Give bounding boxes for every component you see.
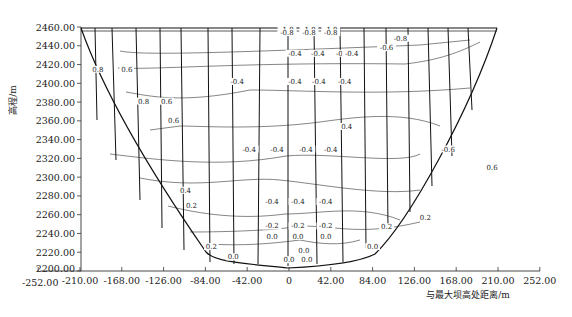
y-tick-label: 2260.00 — [36, 209, 75, 220]
y-tick-label: 2240.00 — [36, 228, 75, 239]
x-axis-ticks: -252.00-210.00-168.00-126.00-84.00-42.00… — [22, 267, 556, 288]
contour-labels: -1.0-0.8-1.0-0.8-1.0-0.8-0.6-0.8-0.4-0.4… — [91, 26, 500, 264]
y-tick-label: 2400.00 — [36, 78, 75, 89]
y-axis-label: 高程/m — [7, 85, 18, 115]
contour-label: -0.4 — [324, 146, 338, 154]
y-tick-label: 2220.00 — [36, 247, 75, 258]
dam-outline — [81, 28, 497, 268]
contour-label: -0.4 — [288, 78, 302, 86]
contour-label: 0.8 — [92, 66, 103, 74]
contour-label: -0.4 — [311, 50, 325, 58]
contour-label: -0.8 — [302, 29, 316, 37]
contour-label: 0.0 — [228, 253, 239, 261]
contour-label: -0.8 — [324, 29, 338, 37]
contour-label: 0.2 — [186, 202, 197, 210]
x-tick-label: 126.00 — [398, 275, 431, 286]
y-tick-label: 2280.00 — [36, 190, 75, 201]
y-tick-label: 2380.00 — [36, 97, 75, 108]
x-tick-label: 252.00 — [523, 275, 556, 286]
contour-label: 0.0 — [367, 243, 378, 251]
contour-label: -0.6 — [441, 146, 455, 154]
contour-label: 0.0 — [298, 247, 309, 255]
contour-label: 0.0 — [320, 233, 331, 241]
x-tick-label: 0 — [286, 275, 292, 286]
contour-label: -0.2 — [319, 222, 333, 230]
x-tick-label: -252.00 — [22, 277, 58, 288]
contour-label: 0.2 — [420, 214, 431, 222]
contour-label: -0.2 — [291, 222, 305, 230]
y-tick-label: 2440.00 — [36, 40, 75, 51]
x-tick-label: 168.00 — [440, 275, 473, 286]
contour-label: -0.2 — [265, 222, 279, 230]
x-tick-label: -168.00 — [104, 275, 140, 286]
contour-label: -0.8 — [280, 29, 294, 37]
x-tick-label: 84.00 — [359, 275, 386, 286]
y-tick-label: 2320.00 — [36, 153, 75, 164]
contour-label: -0.4 — [230, 78, 244, 86]
y-tick-label: 2420.00 — [36, 59, 75, 70]
contour-chart: -252.00-210.00-168.00-126.00-84.00-42.00… — [0, 0, 572, 317]
contour-label: 0.2 — [381, 223, 392, 231]
x-tick-label: -84.00 — [190, 275, 220, 286]
contour-label: -0.4 — [299, 146, 313, 154]
contour-label: 0.0 — [292, 233, 303, 241]
contour-label: 0.0 — [267, 233, 278, 241]
contour-label: -0.6 — [380, 44, 394, 52]
contour-label: -0.4 — [345, 50, 359, 58]
y-tick-label: 2340.00 — [36, 134, 75, 145]
contour-label: 0.0 — [301, 256, 312, 264]
contour-label: -0.4 — [291, 198, 305, 206]
contour-label: 0.8 — [138, 98, 149, 106]
x-tick-label: -42.00 — [232, 275, 262, 286]
contour-label: 0.4 — [180, 187, 192, 195]
contour-label: -0.8 — [394, 35, 408, 43]
contour-label: 0.2 — [206, 243, 217, 251]
contour-label: -0.4 — [288, 50, 302, 58]
y-tick-label: 2460.00 — [36, 22, 75, 33]
y-tick-label: 2200.00 — [36, 263, 75, 274]
y-tick-label: 2360.00 — [36, 115, 75, 126]
y-axis-ticks: 2200.002220.002240.002260.002280.002300.… — [36, 22, 81, 275]
contour-label: -0.4 — [338, 78, 352, 86]
x-tick-label: 210.00 — [481, 275, 514, 286]
y-tick-label: 2300.00 — [36, 172, 75, 183]
contour-label: -0.4 — [265, 198, 279, 206]
contour-label: 0.6 — [161, 98, 173, 106]
contour-label: 0.6 — [486, 164, 498, 172]
x-axis-label: 与最大坝高处距离/m — [426, 289, 510, 300]
contour-label: -0.4 — [270, 146, 284, 154]
contour-label: -0.4 — [242, 146, 256, 154]
x-tick-label: -210.00 — [62, 275, 98, 286]
contour-label: -0.4 — [319, 198, 333, 206]
contour-label: 0.6 — [168, 117, 180, 125]
x-tick-label: 42.00 — [317, 275, 344, 286]
contour-label: 0.4 — [341, 123, 353, 131]
x-tick-label: -126.00 — [145, 275, 181, 286]
contour-label: 0.6 — [121, 66, 133, 74]
contour-label: 0.0 — [283, 256, 294, 264]
contour-label: -0.4 — [312, 78, 326, 86]
